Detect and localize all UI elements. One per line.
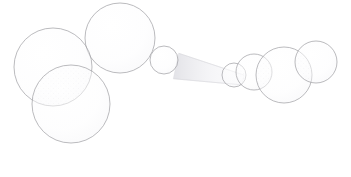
sphere-cap <box>150 46 178 74</box>
sphere-cluster-diagram <box>0 0 351 177</box>
sphere-top <box>85 3 155 73</box>
sphere-far <box>295 41 337 83</box>
diagram-canvas-container <box>0 0 351 177</box>
sphere-bottom <box>32 65 110 143</box>
